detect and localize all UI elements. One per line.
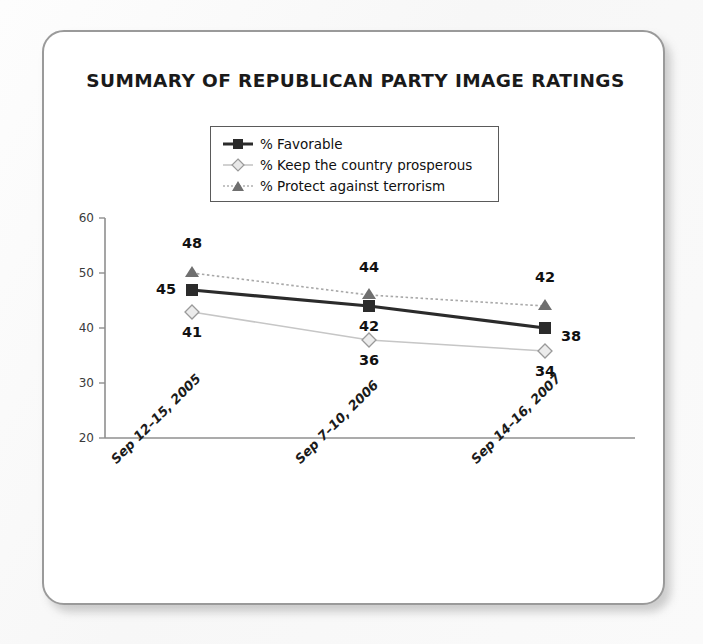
data-point-terrorism bbox=[362, 288, 376, 299]
data-point-favorable bbox=[539, 322, 551, 334]
chart-page: SUMMARY OF REPUBLICAN PARTY IMAGE RATING… bbox=[0, 0, 703, 644]
data-label-favorable: 42 bbox=[359, 318, 379, 334]
data-label-favorable: 45 bbox=[156, 281, 176, 297]
data-label-terrorism: 44 bbox=[359, 259, 379, 275]
data-point-prosperous bbox=[185, 305, 199, 319]
data-point-favorable bbox=[363, 300, 375, 312]
data-label-terrorism: 42 bbox=[535, 269, 555, 285]
y-tick-label: 20 bbox=[68, 431, 94, 445]
y-tick-label: 60 bbox=[68, 211, 94, 225]
data-point-terrorism bbox=[538, 299, 552, 310]
y-tick-label: 30 bbox=[68, 376, 94, 390]
data-label-prosperous: 36 bbox=[359, 352, 379, 368]
chart-svg bbox=[44, 32, 667, 607]
data-point-terrorism bbox=[185, 266, 199, 277]
data-point-prosperous bbox=[538, 344, 552, 358]
data-label-terrorism: 48 bbox=[182, 235, 202, 251]
y-tick-label: 50 bbox=[68, 266, 94, 280]
data-label-favorable: 38 bbox=[561, 328, 581, 344]
y-tick-label: 40 bbox=[68, 321, 94, 335]
data-point-favorable bbox=[186, 284, 198, 296]
data-label-prosperous: 41 bbox=[182, 324, 202, 340]
chart-card: SUMMARY OF REPUBLICAN PARTY IMAGE RATING… bbox=[42, 30, 665, 605]
data-point-prosperous bbox=[362, 333, 376, 347]
plot-area: 60 50 40 30 20 48 44 42 45 42 38 41 36 3… bbox=[44, 32, 667, 607]
